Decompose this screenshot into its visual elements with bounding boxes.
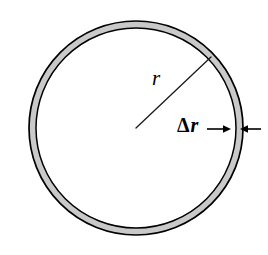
ring-diagram-svg (0, 0, 268, 255)
thickness-label: Δr (177, 115, 198, 135)
ring-figure-canvas: r Δr (0, 0, 268, 255)
radius-label: r (152, 68, 160, 89)
thickness-variable-glyph: r (191, 114, 199, 136)
delta-glyph: Δ (177, 114, 190, 136)
